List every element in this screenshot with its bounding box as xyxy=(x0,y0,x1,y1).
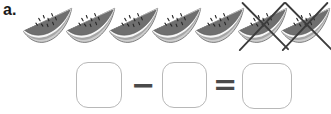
subtraction-worksheet-problem: a. xyxy=(0,0,331,114)
minuend-box[interactable] xyxy=(76,62,122,108)
equation-row: − = xyxy=(0,58,331,114)
watermelon-slice-icon xyxy=(280,4,331,52)
minus-sign: − xyxy=(131,71,155,100)
equals-sign: = xyxy=(213,70,237,99)
result-box[interactable] xyxy=(242,63,292,109)
subtrahend-box[interactable] xyxy=(162,62,207,108)
objects-row xyxy=(0,0,331,58)
